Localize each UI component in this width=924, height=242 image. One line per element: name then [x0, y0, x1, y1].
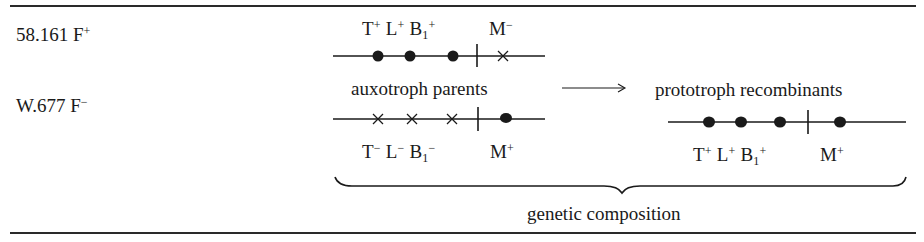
- curly-brace: [335, 177, 906, 193]
- parent1-chromosome: [333, 44, 545, 67]
- recombinant-chromosome: [668, 110, 906, 134]
- dot-marker: [774, 117, 786, 128]
- dot-marker: [735, 117, 747, 128]
- diagram-graphics: [0, 0, 924, 242]
- parent2-chromosome: [333, 107, 545, 131]
- dot-marker: [500, 113, 512, 123]
- arrow-icon: [562, 84, 625, 92]
- dot-marker: [405, 51, 416, 62]
- dot-marker: [373, 51, 384, 62]
- dot-marker: [834, 117, 846, 128]
- dot-marker: [448, 51, 459, 62]
- dot-marker: [703, 117, 715, 128]
